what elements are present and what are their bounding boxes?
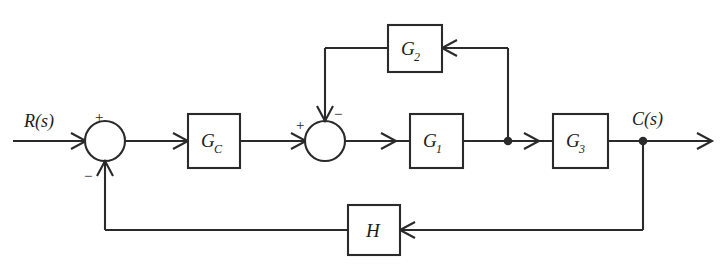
block-g3 [553, 114, 608, 168]
label-block-g1: G [423, 130, 437, 151]
label-block-g3: G [566, 130, 580, 151]
sign-sum2-minus: − [334, 106, 342, 122]
sign-sum1-minus: − [84, 168, 92, 184]
label-block-g2-subscript: 2 [414, 50, 420, 64]
label-block-gc: G [201, 130, 215, 151]
summing-junction-2 [305, 121, 345, 161]
label-output-signal: C(s) [632, 109, 663, 130]
label-block-g3-subscript: 3 [578, 142, 585, 156]
block-g2 [388, 25, 442, 72]
summing-junction-1 [85, 121, 125, 161]
label-block-h: H [365, 220, 381, 241]
block-diagram-canvas: R(s) C(s) + − + − G C G 1 G 2 G 3 H [0, 0, 727, 276]
label-block-g1-subscript: 1 [436, 142, 442, 156]
label-block-g2: G [401, 38, 415, 59]
sign-sum2-plus: + [296, 117, 304, 133]
label-input-signal: R(s) [23, 111, 54, 132]
label-block-gc-subscript: C [214, 142, 223, 156]
sign-sum1-plus: + [95, 109, 103, 125]
block-diagram-svg: R(s) C(s) + − + − G C G 1 G 2 G 3 H [0, 0, 727, 276]
